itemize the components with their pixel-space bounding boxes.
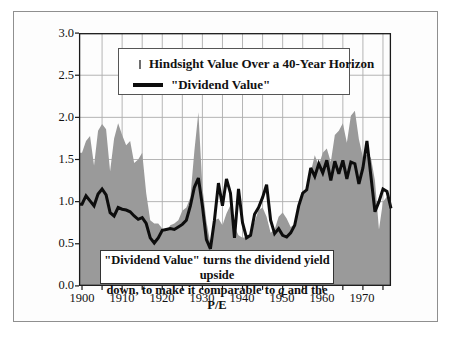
annotation-line-2: down, to make it comparable to q and the… bbox=[101, 283, 333, 313]
y-axis-tick-label: 2.5 bbox=[38, 68, 74, 83]
x-axis-tick-label: 1970 bbox=[342, 291, 382, 306]
y-axis-tick-label: 1.0 bbox=[38, 194, 74, 209]
legend-item-dividend-value: "Dividend Value" bbox=[139, 77, 349, 93]
gray-area-swatch-icon bbox=[139, 60, 141, 69]
legend-item-hindsight-value: Hindsight Value Over a 40-Year Horizon bbox=[139, 56, 349, 72]
black-line-swatch-icon bbox=[133, 83, 163, 87]
legend-label: Hindsight Value Over a 40-Year Horizon bbox=[149, 56, 374, 72]
legend-label: "Dividend Value" bbox=[171, 77, 270, 93]
y-axis-tick-label: 3.0 bbox=[38, 26, 74, 41]
y-axis-tick-label: 0.5 bbox=[38, 236, 74, 251]
y-axis-tick-label: 1.5 bbox=[38, 152, 74, 167]
y-axis-tick-label: 2.0 bbox=[38, 110, 74, 125]
legend-box: Hindsight Value Over a 40-Year Horizon "… bbox=[118, 48, 350, 95]
x-axis-tick-label: 1900 bbox=[62, 291, 102, 306]
scanned-figure-page: 3.0 2.5 2.0 1.5 1.0 0.5 0.0 1900 1910 19… bbox=[0, 0, 455, 339]
annotation-box: "Dividend Value" turns the dividend yiel… bbox=[100, 250, 334, 284]
annotation-line-1: "Dividend Value" turns the dividend yiel… bbox=[101, 253, 333, 283]
